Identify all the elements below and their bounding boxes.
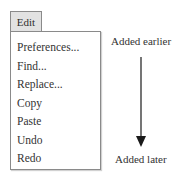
menu-item-find[interactable]: Find... [17, 57, 79, 76]
edit-menu-dropdown: Preferences... Find... Replace... Copy P… [10, 31, 101, 170]
menu-item-undo[interactable]: Undo [17, 131, 79, 150]
menu-item-list: Preferences... Find... Replace... Copy P… [17, 38, 79, 168]
added-later-label: Added later [115, 153, 167, 165]
menu-item-preferences[interactable]: Preferences... [17, 38, 79, 57]
menu-item-replace[interactable]: Replace... [17, 75, 79, 94]
menu-item-paste[interactable]: Paste [17, 112, 79, 131]
menu-item-copy[interactable]: Copy [17, 94, 79, 113]
added-earlier-label: Added earlier [111, 35, 171, 47]
edit-menu-tab[interactable]: Edit [10, 11, 42, 31]
down-arrow-icon [135, 57, 147, 147]
menu-item-redo[interactable]: Redo [17, 149, 79, 168]
